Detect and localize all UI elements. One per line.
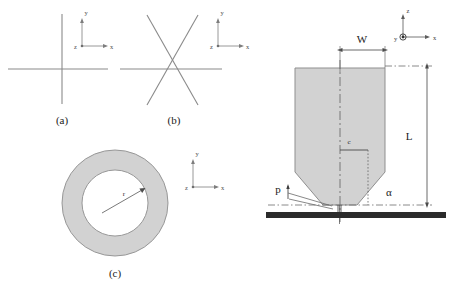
axis-x-arrowhead <box>425 35 430 39</box>
axis-label-z: z <box>407 7 410 14</box>
substrate-plate <box>266 212 446 218</box>
axis-x-arrowhead <box>214 185 219 189</box>
axis-label-y: y <box>394 35 398 42</box>
panel-a-caption: (a) <box>56 114 69 127</box>
width-label: W <box>357 33 368 45</box>
panel-b-caption: (b) <box>168 114 181 127</box>
axis-label-x: x <box>246 43 250 50</box>
panel-c-caption: (c) <box>109 267 122 280</box>
axis-label-x: x <box>221 184 225 191</box>
axis-z-origin-dot <box>192 186 195 189</box>
crack-label: c <box>347 138 350 146</box>
axis-z-origin-dot <box>217 45 220 48</box>
annulus-inner-circle <box>82 170 148 236</box>
length-label: L <box>406 130 413 142</box>
panel-c-axis-triad: y x z <box>185 150 225 191</box>
axis-y-arrowhead <box>80 18 84 23</box>
width-dimension: W <box>337 33 388 72</box>
load-arrowhead <box>286 184 289 189</box>
length-arrowhead-bottom <box>425 203 429 209</box>
panel-d-axis-triad: z x y <box>394 7 437 42</box>
axis-label-y: y <box>84 9 88 16</box>
figure-root: y x z (a) y x z (b) r <box>0 0 451 296</box>
panel-b-axis-triad: y x z <box>210 9 250 50</box>
angle-label: α <box>386 186 392 198</box>
axis-label-y: y <box>220 9 224 16</box>
panel-a-axis-triad: y x z <box>74 9 114 50</box>
axis-y-arrowhead <box>191 159 195 164</box>
panel-c: r y x z (c) <box>62 150 225 280</box>
axis-x-arrowhead <box>239 44 244 48</box>
axis-label-z: z <box>185 184 188 191</box>
axis-z-arrowhead <box>401 14 405 19</box>
axis-z-origin-dot <box>81 45 84 48</box>
axis-label-x: x <box>110 43 114 50</box>
axis-label-z: z <box>210 43 213 50</box>
panel-a: y x z (a) <box>8 9 114 127</box>
axis-label-x: x <box>433 34 437 41</box>
axis-y-out-of-page-dot <box>402 36 405 39</box>
length-dimension: L <box>406 63 429 208</box>
axis-x-arrowhead <box>103 44 108 48</box>
axis-y-arrowhead <box>216 18 220 23</box>
axis-label-z: z <box>74 43 77 50</box>
load-label: p <box>275 183 281 195</box>
panel-d: W L c α p <box>266 7 446 224</box>
axis-label-y: y <box>195 150 199 157</box>
panel-b: y x z (b) <box>120 9 250 127</box>
